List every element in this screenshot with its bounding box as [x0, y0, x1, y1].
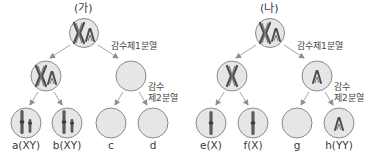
meiosis1-label-na: 감수제1분열 — [297, 41, 343, 51]
arrow — [216, 92, 224, 105]
arrow — [240, 92, 248, 105]
cell-na-mid-left — [217, 61, 247, 91]
meiosis2-label-na-line1: 감수 — [334, 82, 350, 92]
meiosis-diagram: (가) 감수제1분열 감수 제2분열 a(XY) b(XY) c d (나) 감… — [0, 0, 371, 157]
cell-na-top — [256, 19, 285, 48]
cell-ga-mid-left — [31, 61, 61, 91]
cell-label-d: d — [131, 140, 175, 151]
cell-a — [11, 108, 41, 138]
cell-g — [282, 108, 312, 138]
cell-label-f: f(X) — [231, 140, 275, 151]
arrow — [236, 45, 256, 58]
cell-b — [52, 108, 82, 138]
meiosis2-label-na-line2: 제2분열 — [334, 93, 364, 103]
diagram-canvas — [0, 0, 371, 157]
arrow — [30, 92, 38, 105]
cell-label-h: h(YY) — [317, 140, 361, 151]
panel-na — [196, 19, 354, 139]
cell-label-c: c — [89, 140, 133, 151]
cell-f — [238, 108, 268, 138]
arrow — [115, 92, 123, 105]
cell-label-a: a(XY) — [4, 140, 48, 151]
cell-h — [324, 108, 354, 138]
arrow — [50, 45, 70, 58]
cell-label-e: e(X) — [189, 140, 233, 151]
arrow — [139, 92, 147, 105]
meiosis1-label-ga: 감수제1분열 — [111, 41, 157, 51]
cell-label-b: b(XY) — [45, 140, 89, 151]
arrow — [301, 92, 309, 105]
cell-na-mid-right — [302, 61, 332, 91]
panel-title-na: (나) — [260, 3, 279, 14]
cell-label-g: g — [275, 140, 319, 151]
cell-c — [96, 108, 126, 138]
cell-ga-top — [70, 19, 99, 48]
cell-ga-mid-right — [116, 61, 146, 91]
panel-ga — [11, 19, 168, 139]
meiosis2-label-ga-line2: 제2분열 — [148, 93, 178, 103]
cell-e — [196, 108, 226, 138]
meiosis2-label-ga-line1: 감수 — [148, 82, 164, 92]
arrow — [54, 92, 62, 105]
panel-title-ga: (가) — [74, 3, 93, 14]
cell-d — [138, 108, 168, 138]
arrow — [325, 92, 333, 105]
